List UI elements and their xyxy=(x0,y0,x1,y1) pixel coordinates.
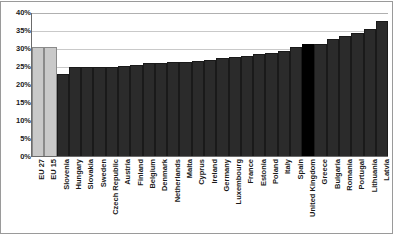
bar xyxy=(118,66,130,156)
bar-slot xyxy=(364,13,376,156)
bar xyxy=(32,47,44,156)
bar xyxy=(167,62,179,156)
bar-slot xyxy=(69,13,81,156)
bar xyxy=(93,67,105,156)
bar-slot xyxy=(106,13,118,156)
y-axis: 40%35%30%25%20%15%10%5%0% xyxy=(0,0,31,236)
bar-slot xyxy=(167,13,179,156)
x-axis-label-slot: Finland xyxy=(130,158,142,234)
y-axis-tick-label: 0% xyxy=(3,153,31,161)
bar xyxy=(278,51,290,156)
plot-area xyxy=(31,13,388,157)
bar-slot xyxy=(216,13,228,156)
bar xyxy=(253,54,265,156)
x-axis-label-slot: Spain xyxy=(290,158,302,234)
x-axis-label-slot: Greece xyxy=(314,158,326,234)
y-axis-tick-label: 30% xyxy=(3,45,31,53)
bar xyxy=(216,58,228,156)
x-axis-label-slot: Sweden xyxy=(93,158,105,234)
bar-slot xyxy=(327,13,339,156)
bar-slot xyxy=(229,13,241,156)
x-axis-label-slot: Denmark xyxy=(154,158,166,234)
bar xyxy=(364,29,376,156)
bar xyxy=(155,63,167,156)
bar xyxy=(327,39,339,156)
bar xyxy=(106,67,118,156)
bar-slot xyxy=(302,13,314,156)
bar xyxy=(69,67,81,156)
bar-slot xyxy=(32,13,44,156)
bar-slot xyxy=(143,13,155,156)
x-axis-label-slot: Netherlands xyxy=(166,158,178,234)
x-axis-label-slot: Hungary xyxy=(68,158,80,234)
bar-slot xyxy=(290,13,302,156)
bar xyxy=(130,65,142,156)
x-axis-label-slot: Estonia xyxy=(253,158,265,234)
bar xyxy=(179,62,191,156)
y-axis-tick-label: 20% xyxy=(3,81,31,89)
x-axis-label-slot: Italy xyxy=(277,158,289,234)
x-axis-label-slot: EU 15 xyxy=(43,158,55,234)
bar xyxy=(81,67,93,156)
x-axis-label-slot: Czech Republic xyxy=(105,158,117,234)
bar xyxy=(351,33,363,156)
bar xyxy=(57,74,69,156)
bar xyxy=(229,57,241,156)
x-axis-label-slot: Germany xyxy=(216,158,228,234)
bar-slot xyxy=(253,13,265,156)
bar xyxy=(339,36,351,156)
x-axis-labels: EU 27EU 15SloveniaHungarySlovakiaSwedenC… xyxy=(31,158,388,234)
y-axis-tick-label: 40% xyxy=(3,9,31,17)
bar-slot xyxy=(81,13,93,156)
x-axis-label-slot: Cyprus xyxy=(191,158,203,234)
bar xyxy=(192,61,204,156)
x-axis-label-slot: Malta xyxy=(179,158,191,234)
x-axis-label-slot: Bulgaria xyxy=(327,158,339,234)
y-axis-tick-label: 15% xyxy=(3,99,31,107)
chart-figure: 40%35%30%25%20%15%10%5%0% EU 27EU 15Slov… xyxy=(0,0,395,236)
bar-slot xyxy=(314,13,326,156)
x-axis-label-slot: Poland xyxy=(265,158,277,234)
x-axis-label-slot: Lithuania xyxy=(363,158,375,234)
bar-slot xyxy=(192,13,204,156)
bar xyxy=(376,21,388,156)
bar xyxy=(143,63,155,156)
bar-slot xyxy=(351,13,363,156)
x-axis-label-slot: Belgium xyxy=(142,158,154,234)
x-axis-label-slot: Portugal xyxy=(351,158,363,234)
y-axis-tick-label: 10% xyxy=(3,117,31,125)
x-axis-tick-label: Latvia xyxy=(382,159,391,181)
bar-slot xyxy=(265,13,277,156)
bar xyxy=(290,47,302,156)
bar-slot xyxy=(278,13,290,156)
bar-slot xyxy=(93,13,105,156)
bar xyxy=(241,56,253,156)
bar-slot xyxy=(118,13,130,156)
x-axis-label-slot: Slovakia xyxy=(80,158,92,234)
x-axis-label-slot: United Kingdom xyxy=(302,158,314,234)
bar xyxy=(302,44,314,156)
x-axis-label-slot: France xyxy=(240,158,252,234)
bar-slot xyxy=(179,13,191,156)
bar xyxy=(265,53,277,156)
bar-slot xyxy=(204,13,216,156)
bar-slot xyxy=(44,13,56,156)
x-axis-label-slot: Slovenia xyxy=(56,158,68,234)
x-axis-label-slot: Austria xyxy=(117,158,129,234)
bar-slot xyxy=(376,13,388,156)
y-axis-tick-label: 35% xyxy=(3,27,31,35)
bar xyxy=(204,60,216,156)
bar-slot xyxy=(130,13,142,156)
bar-series xyxy=(32,13,388,156)
bar-slot xyxy=(155,13,167,156)
x-axis-label-slot: Romania xyxy=(339,158,351,234)
bar-slot xyxy=(57,13,69,156)
bar-slot xyxy=(241,13,253,156)
y-axis-tick-label: 25% xyxy=(3,63,31,71)
bar-slot xyxy=(339,13,351,156)
x-axis-label-slot: EU 27 xyxy=(31,158,43,234)
y-axis-tick-label: 5% xyxy=(3,135,31,143)
x-axis-label-slot: Ireland xyxy=(203,158,215,234)
x-axis-label-slot: Luxembourg xyxy=(228,158,240,234)
bar xyxy=(44,47,56,156)
